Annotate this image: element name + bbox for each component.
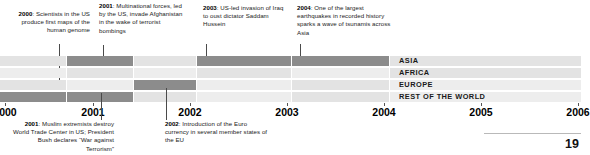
legend-label-rest-of-the-world: REST OF THE WORLD (399, 92, 485, 102)
bar-segment (67, 80, 133, 90)
bar-segment (197, 68, 291, 78)
bar-segment (0, 92, 66, 102)
bar-segment (0, 68, 66, 78)
axis-year-label-2002: 2002 (178, 106, 201, 118)
annotation-year: 2001 (25, 120, 39, 127)
bar-segment (292, 92, 389, 102)
annotation-year: 2003 (203, 4, 217, 11)
timeline-bar-chart: ASIAAFRICAEUROPEREST OF THE WORLD (0, 56, 581, 103)
bar-segment (292, 80, 389, 90)
axis-year-label-2000: 2000 (0, 106, 17, 118)
annotation-year: 2004 (297, 4, 311, 11)
axis-year-label-2006: 2006 (566, 106, 589, 118)
chart-row: ASIA (0, 56, 581, 66)
axis-year-label-2005: 2005 (469, 106, 492, 118)
bar-segment (0, 80, 66, 90)
annotation-top-2001: 2001: Multinational forces, led by the U… (99, 2, 183, 35)
annotation-top-2003: 2003: US-led invasion of Iraq to oust di… (203, 4, 285, 29)
timeline-axis: 2000200120022003200420052006 (0, 103, 581, 121)
annotation-bottom-2002: 2002: Introduction of the Euro currency … (165, 120, 269, 145)
annotation-year: 2000 (19, 10, 33, 17)
bar-segment (197, 56, 291, 66)
annotation-year: 2001 (99, 2, 113, 9)
footer-divider (484, 133, 581, 134)
annotation-year: 2002 (165, 120, 179, 127)
annotation-top-2004: 2004: One of the largest earthquakes in … (297, 4, 397, 37)
annotation-text: : Introduction of the Euro currency in s… (165, 120, 267, 143)
chart-row: EUROPE (0, 80, 581, 90)
bar-segment (0, 56, 66, 66)
chart-row: REST OF THE WORLD (0, 92, 581, 102)
bar-segment (197, 80, 291, 90)
bar-segment (134, 56, 196, 66)
bar-segment (134, 80, 196, 90)
legend-label-asia: ASIA (399, 56, 418, 66)
annotation-text: : One of the largest earthquakes in reco… (297, 4, 390, 36)
annotation-top-2000: 2000: Scientists in the US produce first… (2, 10, 90, 35)
axis-year-label-2003: 2003 (275, 106, 298, 118)
chart-row: AFRICA (0, 68, 581, 78)
bar-segment (292, 56, 389, 66)
bar-segment (67, 68, 133, 78)
leader-line-2001 (101, 93, 102, 120)
bar-segment (134, 92, 196, 102)
legend-label-africa: AFRICA (399, 68, 430, 78)
bar-segment (390, 56, 581, 66)
leader-line-2002 (166, 88, 167, 120)
bar-segment (67, 56, 133, 66)
axis-year-label-2004: 2004 (372, 106, 395, 118)
bar-segment (292, 68, 389, 78)
annotation-bottom-2001: 2001: Muslim extremists destroy World Tr… (10, 120, 114, 153)
page-number: 19 (565, 137, 579, 151)
legend-label-europe: EUROPE (399, 80, 433, 90)
bar-segment (197, 92, 291, 102)
bar-segment (67, 92, 133, 102)
annotation-text: : Scientists in the US produce first map… (21, 10, 90, 33)
bar-segment (134, 68, 196, 78)
